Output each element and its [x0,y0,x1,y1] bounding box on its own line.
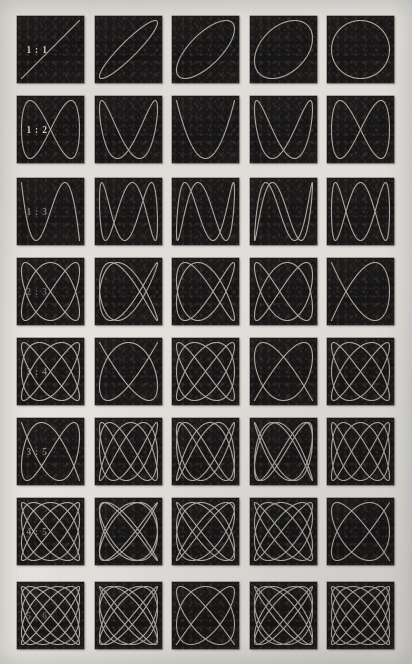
lissajous-curve-svg [95,582,162,649]
lissajous-curve-path [332,423,390,481]
lissajous-curve-svg [95,16,162,83]
lissajous-curve-svg [172,258,239,325]
lissajous-curve-svg [17,16,84,83]
lissajous-curve-svg [250,498,317,565]
lissajous-curve-path [177,503,235,561]
lissajous-curve-path [255,423,313,481]
lissajous-cell-2-3-phase-0: 2 : 3 [17,258,84,325]
lissajous-cell-5-6-phase-0: 5 : 6 [17,582,84,649]
lissajous-cell-1-3-phase-3 [250,178,317,245]
lissajous-curve-svg [17,418,84,485]
lissajous-curve-svg [327,178,394,245]
lissajous-curve-path [100,587,158,645]
lissajous-cell-1-1-phase-2 [172,16,239,83]
lissajous-curve-path [22,183,80,241]
lissajous-curve-svg [327,582,394,649]
lissajous-curve-path [22,101,80,159]
lissajous-curve-svg [95,418,162,485]
lissajous-curve-svg [95,96,162,163]
lissajous-cell-4-5-phase-2 [172,498,239,565]
lissajous-curve-svg [250,96,317,163]
lissajous-cell-5-6-phase-1 [95,582,162,649]
lissajous-curve-path [332,503,390,561]
lissajous-curve-svg [250,178,317,245]
lissajous-cell-3-5-phase-2 [172,418,239,485]
lissajous-cell-5-6-phase-4 [327,582,394,649]
lissajous-curve-path [332,263,390,321]
lissajous-curve-svg [327,96,394,163]
lissajous-cell-4-5-phase-1 [95,498,162,565]
lissajous-cell-1-1-phase-0: 1 : 1 [17,16,84,83]
lissajous-curve-path [332,101,390,159]
lissajous-curve-svg [250,16,317,83]
lissajous-cell-2-3-phase-1 [95,258,162,325]
lissajous-curve-svg [172,16,239,83]
lissajous-curve-path [177,343,235,401]
lissajous-curve-path [255,21,313,79]
lissajous-curve-svg [172,418,239,485]
lissajous-curve-svg [172,338,239,405]
lissajous-curve-path [332,21,390,79]
lissajous-cell-1-2-phase-3 [250,96,317,163]
lissajous-cell-1-2-phase-4 [327,96,394,163]
lissajous-curve-svg [95,498,162,565]
lissajous-cell-3-4-phase-3 [250,338,317,405]
lissajous-curve-svg [250,258,317,325]
lissajous-curve-path [177,423,235,481]
lissajous-curve-svg [172,582,239,649]
lissajous-curve-path [22,423,80,481]
lissajous-curve-svg [327,338,394,405]
lissajous-curve-svg [17,258,84,325]
lissajous-cell-1-3-phase-4 [327,178,394,245]
lissajous-curve-svg [17,338,84,405]
lissajous-curve-svg [250,418,317,485]
lissajous-cell-5-6-phase-2 [172,582,239,649]
lissajous-curve-path [22,587,80,645]
lissajous-curve-svg [250,338,317,405]
lissajous-cell-1-1-phase-3 [250,16,317,83]
lissajous-curve-svg [327,498,394,565]
lissajous-curve-path [177,21,235,79]
lissajous-curve-svg [17,178,84,245]
lissajous-curve-svg [250,582,317,649]
lissajous-cell-4-5-phase-4 [327,498,394,565]
lissajous-cell-3-5-phase-4 [327,418,394,485]
lissajous-curve-path [100,263,158,321]
lissajous-cell-3-4-phase-4 [327,338,394,405]
lissajous-cell-3-5-phase-1 [95,418,162,485]
lissajous-curve-svg [17,582,84,649]
lissajous-curve-svg [95,178,162,245]
lissajous-cell-4-5-phase-0: 4 : 5 [17,498,84,565]
lissajous-curve-svg [95,258,162,325]
lissajous-curve-path [22,263,80,321]
lissajous-curve-path [332,343,390,401]
lissajous-curve-svg [327,16,394,83]
lissajous-curve-path [255,101,313,159]
lissajous-grid: 1 : 11 : 21 : 32 : 33 : 43 : 54 : 55 : 6 [0,0,412,664]
lissajous-cell-1-3-phase-2 [172,178,239,245]
lissajous-curve-path [255,183,313,241]
lissajous-curve-path [22,343,80,401]
lissajous-curve-path [177,587,235,645]
lissajous-curve-svg [17,498,84,565]
lissajous-curve-path [255,263,313,321]
lissajous-curve-path [100,343,158,401]
lissajous-curve-path [177,101,235,159]
lissajous-cell-1-3-phase-0: 1 : 3 [17,178,84,245]
lissajous-curve-path [100,423,158,481]
lissajous-curve-path [22,21,80,79]
lissajous-cell-2-3-phase-4 [327,258,394,325]
lissajous-cell-1-2-phase-1 [95,96,162,163]
lissajous-cell-3-4-phase-1 [95,338,162,405]
lissajous-cell-5-6-phase-3 [250,582,317,649]
lissajous-curve-path [22,503,80,561]
lissajous-cell-1-1-phase-1 [95,16,162,83]
lissajous-cell-1-3-phase-1 [95,178,162,245]
lissajous-curve-path [100,183,158,241]
lissajous-curve-svg [17,96,84,163]
lissajous-cell-3-4-phase-0: 3 : 4 [17,338,84,405]
lissajous-curve-path [177,263,235,321]
lissajous-curve-svg [172,178,239,245]
lissajous-curve-path [177,183,235,241]
lissajous-cell-3-5-phase-3 [250,418,317,485]
